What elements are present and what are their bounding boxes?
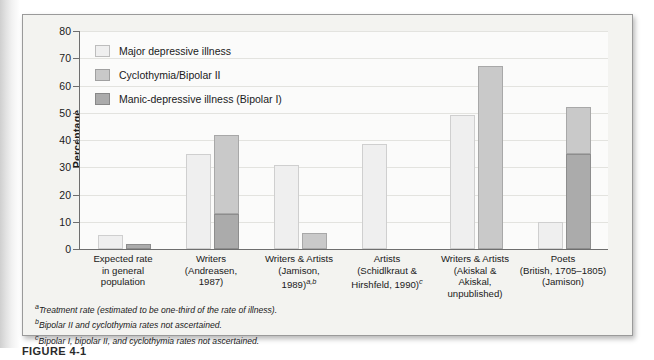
bar-major-depressive[interactable] — [98, 235, 123, 249]
bar-major-depressive[interactable] — [362, 144, 387, 249]
y-axis-tick-label: 20 — [59, 189, 71, 201]
bar-group — [344, 31, 432, 249]
y-axis-tick — [73, 113, 80, 114]
y-axis-tick-label: 70 — [59, 52, 71, 64]
legend-swatch-cyclothymia-icon — [95, 69, 110, 81]
x-axis-group-label: Writers(Andreasen,1987) — [167, 253, 255, 288]
legend-swatch-manic-depressive-icon — [95, 93, 110, 105]
y-axis-tick — [73, 86, 80, 87]
bar-stacked-bipolar[interactable] — [566, 107, 591, 249]
bar-major-depressive[interactable] — [450, 115, 475, 249]
bar-segment-cyclothymia[interactable] — [214, 135, 239, 214]
bar-group — [432, 31, 520, 249]
chart-legend: Major depressive illness Cyclothymia/Bip… — [95, 41, 282, 113]
bar-stacked-bipolar[interactable] — [126, 244, 151, 249]
x-axis-group-label: Poets(British, 1705–1805)(Jamison) — [519, 253, 607, 288]
bar-segment-manic-depressive[interactable] — [214, 214, 239, 249]
legend-label: Manic-depressive illness (Bipolar I) — [119, 93, 282, 105]
legend-label: Cyclothymia/Bipolar II — [119, 69, 221, 81]
bar-segment-cyclothymia[interactable] — [302, 233, 327, 249]
y-axis-tick — [73, 195, 80, 196]
bar-segment-cyclothymia[interactable] — [566, 107, 591, 153]
footnote: bBipolar II and cyclothymia rates not as… — [35, 316, 625, 331]
footnote: aTreatment rate (estimated to be one-thi… — [35, 301, 625, 316]
x-axis-group-label: Writers & Artists(Akiskal &Akiskal,unpub… — [431, 253, 519, 299]
footnotes: aTreatment rate (estimated to be one-thi… — [35, 301, 625, 347]
y-axis-tick — [73, 249, 80, 250]
legend-item[interactable]: Cyclothymia/Bipolar II — [95, 65, 282, 84]
bar-group — [520, 31, 608, 249]
bar-stacked-bipolar[interactable] — [302, 233, 327, 249]
y-axis-tick — [73, 222, 80, 223]
y-axis-tick-label: 50 — [59, 107, 71, 119]
footnote: cBipolar I, bipolar II, and cyclothymia … — [35, 332, 625, 347]
bar-stacked-bipolar[interactable] — [214, 135, 239, 249]
x-axis-labels: Expected ratein generalpopulationWriters… — [79, 253, 607, 301]
legend-item[interactable]: Manic-depressive illness (Bipolar I) — [95, 89, 282, 108]
bar-major-depressive[interactable] — [186, 154, 211, 249]
x-axis-group-label: Writers & Artists(Jamison,1989)a,b — [255, 253, 343, 291]
bar-segment-cyclothymia[interactable] — [478, 66, 503, 249]
y-axis-tick — [73, 31, 80, 32]
y-axis-tick-label: 60 — [59, 80, 71, 92]
chart-container: Percentage 01020304050607080 Major depre… — [23, 15, 634, 337]
y-axis-tick-label: 80 — [59, 25, 71, 37]
legend-swatch-major-depressive-icon — [95, 45, 110, 57]
x-axis-group-label: Artists(Schidlkraut &Hirshfeld, 1990)c — [343, 253, 431, 291]
y-axis-tick — [73, 140, 80, 141]
y-axis-tick — [73, 58, 80, 59]
bar-segment-manic-depressive[interactable] — [566, 154, 591, 249]
y-axis-tick-label: 10 — [59, 216, 71, 228]
legend-label: Major depressive illness — [119, 45, 231, 57]
figure-caption: FIGURE 4-1 — [22, 345, 87, 359]
bar-major-depressive[interactable] — [538, 222, 563, 249]
y-axis-tick-label: 0 — [65, 243, 71, 255]
legend-item[interactable]: Major depressive illness — [95, 41, 282, 60]
bar-major-depressive[interactable] — [274, 165, 299, 249]
bar-stacked-bipolar[interactable] — [478, 66, 503, 249]
y-axis-tick-label: 30 — [59, 161, 71, 173]
screenshot-root: Percentage 01020304050607080 Major depre… — [0, 0, 654, 360]
y-axis-tick — [73, 167, 80, 168]
y-axis-tick-label: 40 — [59, 134, 71, 146]
bar-segment-manic-depressive[interactable] — [126, 244, 151, 249]
x-axis-group-label: Expected ratein generalpopulation — [79, 253, 167, 288]
figure-panel: Percentage 01020304050607080 Major depre… — [22, 14, 633, 336]
